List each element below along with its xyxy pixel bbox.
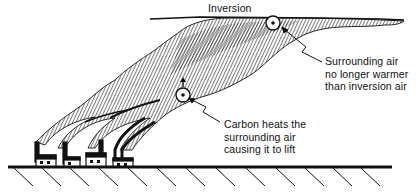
carbon-heats-line-2: surrounding air — [224, 131, 334, 144]
ground — [8, 167, 392, 186]
particle-upper-icon — [266, 16, 280, 30]
carbon-heats-line-1: Carbon heats the — [224, 118, 334, 131]
factory-2 — [63, 142, 80, 167]
inversion-diagram — [0, 0, 418, 195]
surrounding-air-line-2: no longer warmer — [325, 68, 418, 81]
carbon-heats-label: Carbon heats the surrounding air causing… — [224, 118, 334, 156]
surrounding-air-label: Surrounding air no longer warmer than in… — [325, 55, 418, 93]
carbon-heats-line-3: causing it to lift — [224, 143, 334, 156]
surrounding-air-line-1: Surrounding air — [325, 55, 418, 68]
inversion-label: Inversion — [208, 2, 252, 15]
factory-1 — [35, 142, 56, 167]
surrounding-air-line-3: than inversion air — [325, 80, 418, 93]
leader-carbon — [189, 98, 220, 122]
